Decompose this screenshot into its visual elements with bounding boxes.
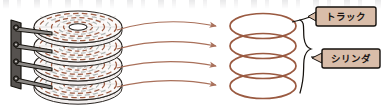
platter-1 xyxy=(34,11,122,47)
cylinder-ring-2 xyxy=(230,34,296,59)
mapping-arrow-1 xyxy=(117,22,216,30)
platter-stack xyxy=(34,11,122,104)
track-pointer-wedge xyxy=(308,12,316,21)
cylinder-label-text: シリンダ xyxy=(331,53,372,64)
cylinder-ring-stack xyxy=(230,14,296,99)
label-callout-track[interactable]: トラック xyxy=(292,7,376,26)
cylinder-ring-3 xyxy=(230,54,296,79)
cylinder-ring-4 xyxy=(230,74,296,99)
mapping-arrow-3 xyxy=(117,62,216,68)
mapping-arrows xyxy=(117,22,216,87)
track-label-text: トラック xyxy=(326,11,367,22)
cylinder-pointer-wedge xyxy=(312,53,322,63)
mapping-arrow-2 xyxy=(117,42,216,49)
cylinder-ring-1 xyxy=(230,14,296,39)
spindle-hole xyxy=(69,24,87,31)
hard-disk-cylinder-track-diagram: トラック シリンダ xyxy=(0,0,382,108)
label-callout-cylinder[interactable]: シリンダ xyxy=(311,49,380,68)
cylinder-brace xyxy=(300,20,311,93)
mapping-arrow-4 xyxy=(117,81,216,87)
